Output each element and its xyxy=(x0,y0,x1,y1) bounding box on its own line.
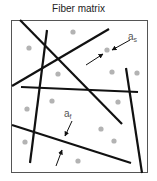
particle xyxy=(98,126,103,131)
particle xyxy=(55,71,60,76)
particle xyxy=(49,98,54,103)
particle xyxy=(22,139,27,144)
particle xyxy=(24,106,29,111)
fiber-matrix-diagram: as af xyxy=(0,0,157,181)
particle xyxy=(115,99,120,104)
particle xyxy=(111,138,116,143)
particle xyxy=(109,69,114,74)
particle xyxy=(104,47,109,52)
particle xyxy=(75,158,80,163)
particle xyxy=(134,70,139,75)
particle xyxy=(26,45,31,50)
particle xyxy=(70,29,75,34)
